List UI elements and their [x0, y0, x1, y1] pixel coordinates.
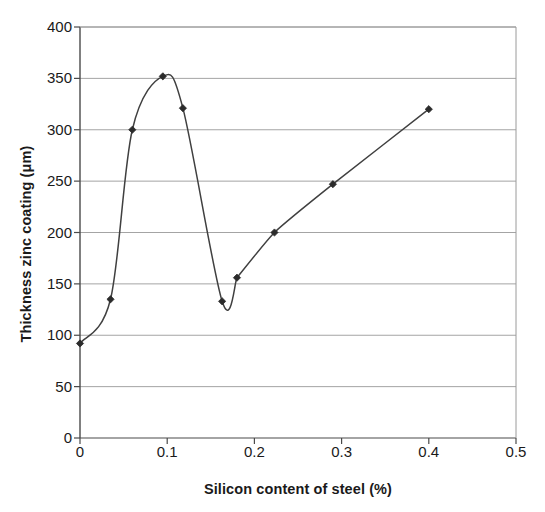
series-curve-left	[80, 74, 237, 343]
data-series-markers	[76, 73, 432, 347]
y-tick-marks	[74, 27, 80, 438]
chart-figure: Thickness zinc coating (μm) Silicon cont…	[0, 0, 545, 512]
data-point-3	[159, 73, 166, 80]
series-curve-right	[237, 109, 429, 278]
gridlines	[80, 27, 516, 387]
data-point-1	[107, 296, 114, 303]
data-series-line	[80, 74, 429, 343]
data-point-2	[129, 126, 136, 133]
x-tick-marks	[80, 438, 516, 444]
plot-canvas	[0, 0, 545, 512]
data-point-5	[219, 298, 226, 305]
data-point-4	[179, 105, 186, 112]
